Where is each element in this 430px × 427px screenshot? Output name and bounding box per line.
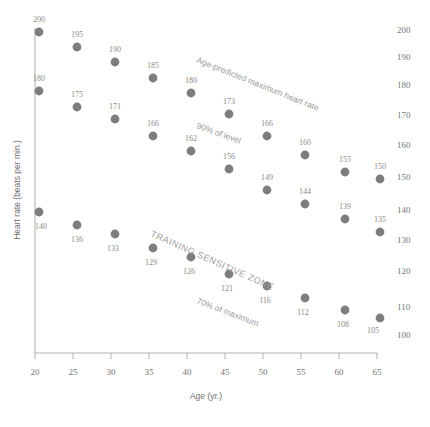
y-tick-label: 100 xyxy=(397,330,411,340)
series-max-heart-rate: 200 195 190 185 180 173 166 160 155 150 xyxy=(33,15,386,183)
point-label: 129 xyxy=(145,258,157,267)
y-tick-label: 180 xyxy=(397,80,411,90)
point-label: 155 xyxy=(339,155,351,164)
y-tick-label: 120 xyxy=(397,266,411,276)
data-point xyxy=(341,168,350,177)
data-point xyxy=(35,208,44,217)
data-point xyxy=(301,151,310,160)
point-label: 180 xyxy=(185,76,197,85)
y-tick-label: 110 xyxy=(397,302,411,312)
data-point xyxy=(35,87,44,96)
heart-rate-scatter-chart: 20 25 30 35 40 45 50 55 60 65 200 190 18… xyxy=(0,0,430,427)
point-label: 135 xyxy=(374,215,386,224)
y-tick-label: 130 xyxy=(397,235,411,245)
data-point xyxy=(73,103,82,112)
point-label: 180 xyxy=(33,74,45,83)
series-ninety-percent-level: 180 175 171 166 162 156 149 144 139 135 xyxy=(33,74,386,236)
point-label: 195 xyxy=(71,30,83,39)
point-label: 116 xyxy=(259,296,271,305)
chart-canvas: 20 25 30 35 40 45 50 55 60 65 200 190 18… xyxy=(0,0,430,427)
point-label: 171 xyxy=(109,102,121,111)
y-tick-label: 150 xyxy=(397,172,411,182)
point-label: 166 xyxy=(261,119,273,128)
point-label: 136 xyxy=(71,235,83,244)
point-label: 149 xyxy=(261,173,273,182)
data-point xyxy=(341,306,350,315)
point-label: 156 xyxy=(223,152,235,161)
point-label: 139 xyxy=(339,202,351,211)
y-tick-label: 200 xyxy=(397,25,411,35)
x-tick-label: 35 xyxy=(145,367,155,377)
point-label: 173 xyxy=(223,97,235,106)
point-label: 144 xyxy=(299,187,311,196)
point-label: 121 xyxy=(221,284,233,293)
annotation-seventy-percent: 70% of maximum xyxy=(195,296,260,329)
series-seventy-percent-maximum: 140 136 133 129 126 121 116 112 108 105 xyxy=(35,208,385,335)
data-point xyxy=(73,43,82,52)
data-point xyxy=(263,186,272,195)
x-tick-label: 65 xyxy=(373,367,383,377)
x-tick-label: 55 xyxy=(297,367,307,377)
y-tick-labels-right: 200 190 180 170 160 150 140 130 120 110 … xyxy=(397,25,411,340)
x-tick-label: 30 xyxy=(107,367,117,377)
x-tick-label: 20 xyxy=(31,367,41,377)
point-label: 175 xyxy=(71,90,83,99)
data-point xyxy=(111,230,120,239)
data-point xyxy=(111,115,120,124)
point-label: 166 xyxy=(147,119,159,128)
point-label: 162 xyxy=(185,134,197,143)
point-label: 150 xyxy=(374,162,386,171)
y-tick-label: 140 xyxy=(397,205,411,215)
y-tick-label: 170 xyxy=(397,110,411,120)
data-point xyxy=(263,132,272,141)
point-label: 140 xyxy=(35,222,47,231)
data-point xyxy=(376,228,385,237)
point-label: 160 xyxy=(299,138,311,147)
annotation-training-sensitive-zone: TRAINING SENSITIVE ZONE xyxy=(149,229,275,293)
data-point xyxy=(187,147,196,156)
annotation-ninety-percent: 90% of level xyxy=(195,120,242,145)
data-point xyxy=(301,294,310,303)
data-point xyxy=(225,165,234,174)
data-point xyxy=(111,58,120,67)
x-tick-labels: 20 25 30 35 40 45 50 55 60 65 xyxy=(31,367,383,377)
point-label: 112 xyxy=(297,308,309,317)
data-point xyxy=(149,74,158,83)
point-label: 200 xyxy=(33,15,45,24)
data-point xyxy=(376,314,385,323)
data-point xyxy=(341,215,350,224)
point-label: 133 xyxy=(107,244,119,253)
x-tick-label: 60 xyxy=(335,367,345,377)
y-tick-label: 160 xyxy=(397,140,411,150)
data-point xyxy=(376,175,385,184)
x-tick-label: 50 xyxy=(259,367,269,377)
annotation-max-heart-rate: Age-predicted maximum heart rate xyxy=(195,55,320,113)
x-tick-label: 25 xyxy=(69,367,79,377)
y-axis-title: Heart rate (beats per min.) xyxy=(12,140,22,240)
point-label: 105 xyxy=(367,326,379,335)
data-point xyxy=(149,244,158,253)
data-point xyxy=(187,89,196,98)
data-point xyxy=(301,200,310,209)
x-axis-title: Age (yr.) xyxy=(190,391,222,401)
point-label: 126 xyxy=(183,267,195,276)
x-tick-label: 45 xyxy=(221,367,231,377)
x-axis-ticks xyxy=(35,353,377,359)
point-label: 185 xyxy=(147,61,159,70)
point-label: 190 xyxy=(109,45,121,54)
point-label: 108 xyxy=(337,320,349,329)
data-point xyxy=(149,132,158,141)
data-point xyxy=(225,110,234,119)
y-tick-label: 190 xyxy=(397,52,411,62)
data-point xyxy=(73,221,82,230)
data-point xyxy=(35,28,44,37)
x-tick-label: 40 xyxy=(183,367,193,377)
